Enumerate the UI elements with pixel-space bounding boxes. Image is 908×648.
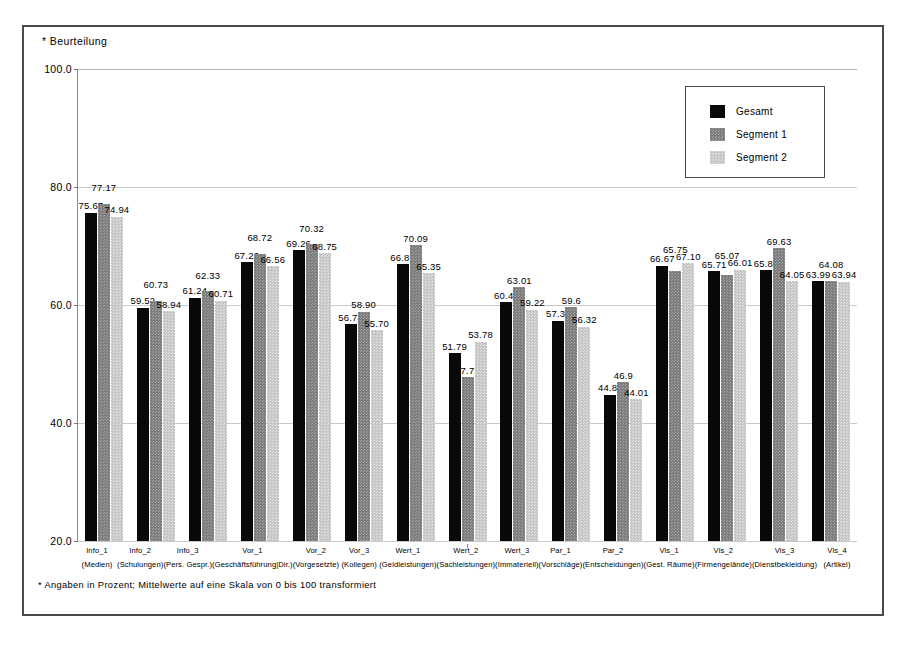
- bar-wrapper: 53.78: [475, 69, 487, 541]
- bar[interactable]: [189, 298, 201, 541]
- bar-group: 69.2670.3268.75: [286, 69, 338, 541]
- bar[interactable]: [734, 270, 746, 541]
- bar-wrapper: 59.22: [526, 69, 538, 541]
- bar[interactable]: [513, 287, 525, 541]
- bar[interactable]: [565, 307, 577, 541]
- bar[interactable]: [617, 382, 629, 541]
- legend-item-segment-1[interactable]: Segment 1: [710, 123, 824, 146]
- x-axis-label-vls_2: Vls_2(Firmengelände): [695, 544, 752, 573]
- x-axis-label-description: (Medien): [77, 558, 117, 572]
- bar[interactable]: [812, 281, 824, 541]
- bar-value-label: 44.01: [624, 388, 649, 398]
- bar[interactable]: [254, 254, 266, 541]
- bar[interactable]: [410, 245, 422, 541]
- bar[interactable]: [462, 377, 474, 541]
- bar-wrapper: 60.46: [500, 69, 512, 541]
- x-axis-label-vls_3: Vls_3(Dienstbekleidung): [752, 544, 817, 573]
- bar-value-label: 58.94: [157, 300, 182, 310]
- bar-wrapper: 65.75: [669, 69, 681, 541]
- bar[interactable]: [98, 204, 110, 541]
- bar-value-label: 63.94: [832, 270, 857, 280]
- bar[interactable]: [267, 266, 279, 541]
- bar[interactable]: [578, 327, 590, 541]
- x-axis-label-par_2: Par_2(Entscheidungen): [582, 544, 643, 573]
- bar[interactable]: [604, 395, 616, 541]
- bar[interactable]: [825, 281, 837, 541]
- bar-group: 56.7458.9055.70: [338, 69, 390, 541]
- x-axis-label-code: Vls_1: [644, 544, 695, 558]
- bar[interactable]: [449, 353, 461, 541]
- bar-wrapper: 47.72: [462, 69, 474, 541]
- bar-wrapper: 66.67: [656, 69, 668, 541]
- bar[interactable]: [163, 311, 175, 541]
- y-axis-tick-label: 100.0: [44, 63, 72, 75]
- bar[interactable]: [682, 263, 694, 541]
- bar-wrapper: 64.08: [825, 69, 837, 541]
- bar[interactable]: [358, 312, 370, 542]
- bar-value-label: 67.10: [676, 252, 701, 262]
- bar[interactable]: [241, 262, 253, 541]
- bar[interactable]: [669, 271, 681, 541]
- bar-value-label: 65.35: [416, 262, 441, 272]
- bar[interactable]: [760, 270, 772, 541]
- bar-wrapper: 66.56: [267, 69, 279, 541]
- legend-swatch-icon: [710, 128, 725, 141]
- x-axis-label-code: Vor_3: [339, 544, 379, 558]
- x-axis-label-code: Info_2: [117, 544, 163, 558]
- bar-wrapper: 61.24: [189, 69, 201, 541]
- x-axis-label-code: Par_2: [582, 544, 643, 558]
- bar-group: 75.6777.1774.94: [78, 69, 130, 541]
- x-axis-tick-mark: [467, 544, 468, 548]
- bar-wrapper: 65.35: [423, 69, 435, 541]
- legend-swatch-icon: [710, 105, 725, 118]
- y-axis-tick-label: 40.0: [50, 417, 72, 429]
- bar-value-label: 66.56: [260, 255, 285, 265]
- x-axis-label-code: Info_3: [163, 544, 212, 558]
- bar[interactable]: [85, 213, 97, 541]
- bar-wrapper: 58.94: [163, 69, 175, 541]
- bar[interactable]: [423, 273, 435, 541]
- x-axis-label-description: (Geldleistungen): [379, 558, 436, 572]
- x-axis-label-wert_1: Wert_1(Geldleistungen): [379, 544, 436, 573]
- legend-label: Segment 1: [736, 129, 787, 140]
- bar[interactable]: [293, 250, 305, 541]
- bar[interactable]: [500, 302, 512, 541]
- bar[interactable]: [371, 330, 383, 541]
- bar[interactable]: [656, 266, 668, 541]
- legend-item-segment-2[interactable]: Segment 2: [710, 146, 824, 169]
- bar[interactable]: [773, 248, 785, 541]
- bar-wrapper: 59.52: [137, 69, 149, 541]
- x-axis-label-vor_1: Vor_1(Geschäftsführung|Dir.): [212, 544, 293, 573]
- bar-group: 57.3359.656.32: [545, 69, 597, 541]
- bar-wrapper: 62.33: [202, 69, 214, 541]
- bar-group: 59.5260.7358.94: [130, 69, 182, 541]
- x-axis-label-wert_3: Wert_3(Immateriell): [495, 544, 539, 573]
- bar[interactable]: [306, 244, 318, 541]
- bar[interactable]: [215, 301, 227, 541]
- bar[interactable]: [150, 301, 162, 541]
- bar[interactable]: [786, 281, 798, 541]
- bar[interactable]: [552, 321, 564, 541]
- bar[interactable]: [319, 253, 331, 541]
- chart-legend: Gesamt Segment 1 Segment 2: [685, 86, 825, 178]
- bar[interactable]: [721, 275, 733, 541]
- bar[interactable]: [838, 282, 850, 541]
- legend-item-gesamt[interactable]: Gesamt: [710, 100, 824, 123]
- bar[interactable]: [708, 271, 720, 541]
- bar[interactable]: [111, 217, 123, 541]
- x-axis-label-code: Par_1: [539, 544, 583, 558]
- chart-footnote: * Angaben in Prozent; Mittelwerte auf ei…: [38, 580, 376, 590]
- bar[interactable]: [630, 399, 642, 541]
- bar[interactable]: [345, 324, 357, 541]
- bar[interactable]: [526, 310, 538, 541]
- bar-wrapper: 70.09: [410, 69, 422, 541]
- x-axis-label-code: Vor_1: [212, 544, 293, 558]
- bar-value-label: 68.75: [312, 242, 337, 252]
- bar-wrapper: 75.67: [85, 69, 97, 541]
- bar[interactable]: [202, 291, 214, 541]
- x-axis-label-description: (Schulungen): [117, 558, 163, 572]
- bar[interactable]: [137, 308, 149, 541]
- bar[interactable]: [475, 342, 487, 541]
- bar[interactable]: [397, 264, 409, 541]
- y-axis-title: * Beurteilung: [42, 35, 107, 47]
